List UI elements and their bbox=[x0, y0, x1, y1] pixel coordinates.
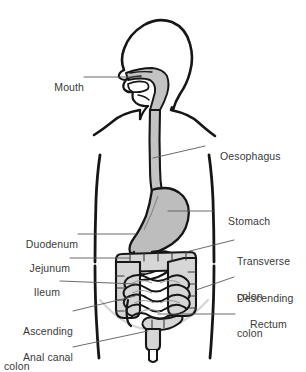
tongue bbox=[128, 81, 149, 92]
label-mouth: Mouth bbox=[0, 70, 84, 105]
leader-line-transverse-colon bbox=[186, 240, 234, 252]
torso-outline-left-shoulder bbox=[94, 110, 140, 135]
ascending-colon bbox=[116, 262, 140, 318]
leader-line-oesophagus bbox=[153, 146, 205, 158]
label-rectum: Rectum bbox=[238, 307, 287, 342]
leader-line-anal-canal bbox=[73, 331, 148, 347]
neck-back-line bbox=[171, 107, 173, 110]
digestive-system-diagram: Mouth Oesophagus Stomach Duodenum Transv… bbox=[0, 0, 306, 372]
anal-canal bbox=[149, 350, 157, 362]
torso-outline-left-arm bbox=[95, 155, 100, 262]
label-oesophagus: Oesophagus bbox=[208, 139, 281, 174]
stomach bbox=[130, 188, 189, 257]
label-anal-canal: Anal canal bbox=[0, 340, 73, 372]
oesophagus bbox=[150, 110, 163, 192]
rectum bbox=[146, 329, 160, 350]
torso-outline-left-arm-lower bbox=[95, 266, 99, 358]
torso-outline-right-shoulder bbox=[171, 110, 215, 136]
larynx-detail bbox=[138, 95, 149, 100]
torso-outline-right-arm-lower bbox=[210, 266, 214, 358]
jaw-contour bbox=[140, 106, 148, 120]
